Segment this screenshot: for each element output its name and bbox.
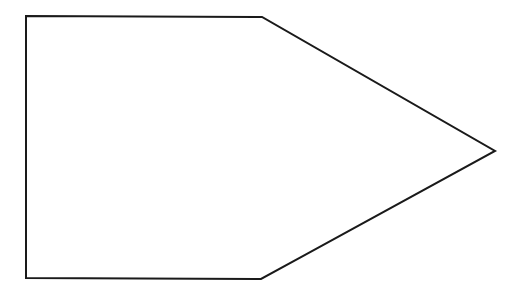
pentagon-arrow-shape xyxy=(26,16,495,279)
diagram-canvas xyxy=(0,0,524,290)
